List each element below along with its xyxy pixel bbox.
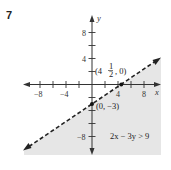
x-axis-left-arrow-icon xyxy=(23,82,30,87)
x-axis-label: x xyxy=(154,87,159,97)
y-tick-label-neg8: −8 xyxy=(77,133,86,142)
x-intercept-point xyxy=(119,83,123,87)
inequality-graph: y x −8 −4 4 8 8 4 −8 (4 1 2 , 0) (0, −3)… xyxy=(0,0,171,170)
x-tick-label-4: 4 xyxy=(116,90,120,99)
x-intercept-label-denominator: 2 xyxy=(109,69,113,79)
y-intercept-label: (0, −3) xyxy=(96,101,119,111)
x-tick-label-neg8: −8 xyxy=(34,90,43,99)
inequality-label: 2x − 3y > 9 xyxy=(110,131,149,141)
y-intercept-point xyxy=(90,102,94,106)
x-intercept-label: (4 1 2 , 0) xyxy=(95,61,127,79)
y-axis-label: y xyxy=(96,13,101,23)
x-tick-label-neg4: −4 xyxy=(60,90,69,99)
y-tick-label-4: 4 xyxy=(82,55,86,64)
y-tick-label-8: 8 xyxy=(82,29,86,38)
y-axis-up-arrow-icon xyxy=(90,15,95,22)
x-intercept-label-suffix: , 0) xyxy=(115,66,127,76)
x-tick-label-8: 8 xyxy=(142,90,146,99)
x-intercept-label-prefix: (4 xyxy=(95,66,103,76)
